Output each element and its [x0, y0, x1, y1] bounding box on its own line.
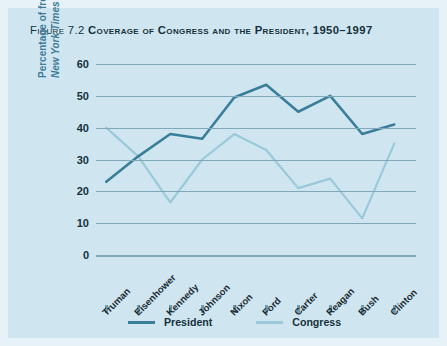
legend: President Congress [128, 316, 341, 328]
gridline [96, 223, 416, 224]
legend-swatch-congress [256, 321, 283, 324]
y-axis-tick-label: 40 [77, 122, 89, 134]
legend-swatch-president [128, 321, 155, 324]
gridline [96, 191, 416, 192]
x-axis-label-carter: Carter [292, 290, 320, 318]
y-axis-tick-label: 30 [77, 154, 89, 166]
series-lines [96, 58, 416, 258]
chart-panel: Figure 7.2 Coverage of Congress and the … [8, 8, 439, 338]
y-axis-tick-label: 20 [77, 185, 89, 197]
y-axis-tick-label: 50 [77, 90, 89, 102]
gridline [96, 96, 416, 97]
y-axis-tick-label: 0 [83, 249, 89, 261]
gridline [96, 160, 416, 161]
plot-area: 0102030405060 TrumanEisenhowerKennedyJoh… [96, 58, 416, 255]
series-line-congress [106, 128, 394, 219]
x-axis-label-clinton: Clinton [388, 287, 419, 318]
y-axis-tick-label: 60 [77, 58, 89, 70]
x-axis-label-nixon: Nixon [228, 291, 255, 318]
legend-label-president: President [164, 316, 212, 328]
x-axis-label-johnson: Johnson [196, 282, 232, 318]
x-axis-label-bush: Bush [356, 293, 381, 318]
x-axis-label-truman: Truman [100, 285, 132, 317]
series-line-president [106, 85, 394, 182]
y-axis-title-line1: Percentage of front-page [37, 0, 48, 78]
legend-item-president[interactable]: President [128, 316, 212, 328]
y-axis-tick-label: 10 [77, 217, 89, 229]
figure-title: Figure 7.2 Coverage of Congress and the … [30, 24, 373, 36]
gridline [96, 128, 416, 129]
y-axis-title: Percentage of front-page New York Times … [36, 0, 62, 78]
figure-container: Figure 7.2 Coverage of Congress and the … [0, 0, 447, 346]
x-axis-label-reagan: Reagan [324, 285, 356, 317]
x-axis-label-ford: Ford [260, 295, 283, 318]
legend-item-congress[interactable]: Congress [256, 316, 341, 328]
x-axis-line [96, 255, 416, 257]
y-axis-title-italic: New York Times [50, 1, 61, 78]
y-axis-title-rest: stories [50, 0, 61, 1]
legend-label-congress: Congress [292, 316, 341, 328]
figure-title-text: Coverage of Congress and the President, … [88, 24, 372, 36]
gridline [96, 64, 416, 65]
